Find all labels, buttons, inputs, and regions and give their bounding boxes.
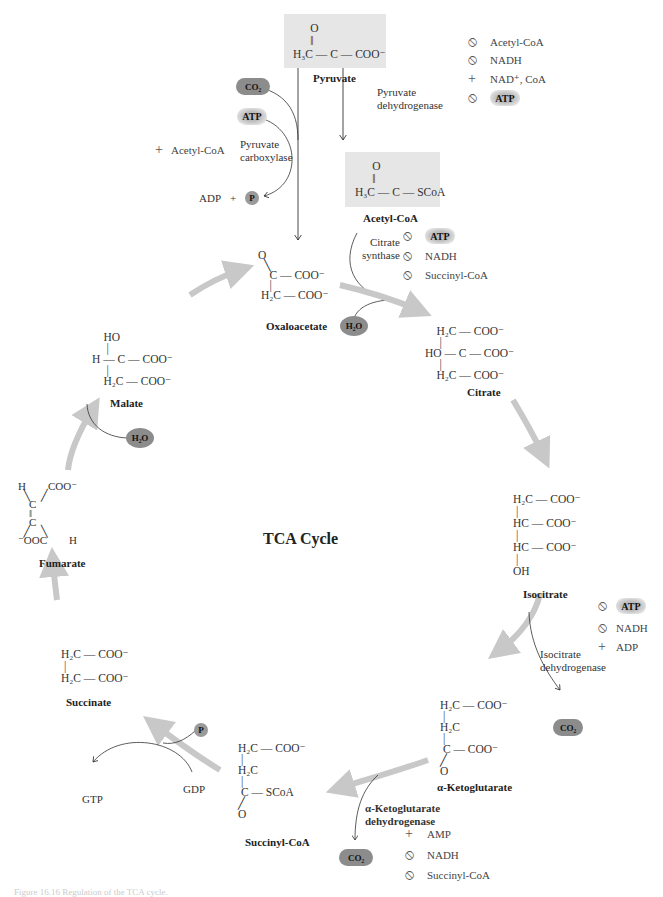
h2o-badge: H₂O bbox=[340, 316, 368, 336]
phosphate-badge: P bbox=[194, 723, 208, 737]
alpha-ketoglutarate-structure: H₂C — COO⁻ | H₂C | C — COO⁻ ╱ O bbox=[440, 700, 508, 777]
regulator-item: +ADP bbox=[598, 639, 638, 655]
inhibit-icon: ⦸ bbox=[468, 90, 490, 106]
regulator-item: ⦸Succinyl-CoA bbox=[405, 867, 490, 883]
regulator-item: +NAD⁺, CoA bbox=[468, 71, 546, 87]
oxaloacetate-label: Oxaloacetate bbox=[266, 320, 327, 332]
regulator-item: ⦸ATP bbox=[403, 228, 455, 244]
figure-caption: Figure 16.16 Regulation of the TCA cycle… bbox=[14, 887, 168, 897]
enzyme-pyruvate-dehydrogenase: Pyruvate dehydrogenase bbox=[377, 86, 443, 112]
succinate-label: Succinate bbox=[66, 696, 111, 708]
plus-sign: + bbox=[230, 192, 236, 204]
regulator-item: ⦸ATP bbox=[598, 598, 646, 614]
diagram-title: TCA Cycle bbox=[263, 530, 338, 548]
inhibit-icon: ⦸ bbox=[598, 620, 616, 636]
regulator-item: ⦸NADH bbox=[468, 52, 522, 68]
isocitrate-label: Isocitrate bbox=[523, 588, 568, 600]
plus-icon: + bbox=[155, 142, 171, 158]
succinate-structure: H₂C — COO⁻ | H₂C — COO⁻ bbox=[61, 648, 129, 684]
malate-label: Malate bbox=[110, 397, 143, 409]
atp-badge: ATP bbox=[490, 90, 520, 106]
alpha-ketoglutarate-label: α-Ketoglutarate bbox=[437, 781, 512, 793]
pyruvate-label: Pyruvate bbox=[313, 72, 356, 84]
oxaloacetate-structure: O ╲ C — COO⁻ | H₂C — COO⁻ bbox=[258, 250, 328, 300]
enzyme-pyruvate-carboxylase: Pyruvate carboxylase bbox=[240, 138, 293, 164]
regulator-item: ⦸Acetyl-CoA bbox=[468, 34, 544, 50]
inhibit-icon: ⦸ bbox=[598, 598, 616, 614]
citrate-structure: H₂C — COO⁻ | HO — C — COO⁻ | H₂C — COO⁻ bbox=[425, 326, 514, 381]
malate-structure: HO | H — C — COO⁻ | H₂C — COO⁻ bbox=[92, 332, 173, 387]
atp-badge: ATP bbox=[616, 598, 646, 614]
inhibit-icon: ⦸ bbox=[405, 847, 427, 863]
pyruvate-structure: O ‖ H₃C — C — COO⁻ bbox=[293, 22, 386, 61]
regulator-item: ⦸NADH bbox=[405, 847, 459, 863]
enzyme-citrate-synthase: Citrate synthase bbox=[362, 236, 400, 262]
regulator-item: ⦸Succinyl-CoA bbox=[403, 267, 488, 283]
inhibit-icon: ⦸ bbox=[468, 34, 490, 50]
gtp-label: GTP bbox=[82, 793, 103, 805]
regulator-pyruvate-carboxylase: +Acetyl-CoA bbox=[155, 142, 225, 158]
regulator-item: ⦸NADH bbox=[598, 620, 648, 636]
regulator-item: ⦸NADH bbox=[403, 248, 457, 264]
inhibit-icon: ⦸ bbox=[405, 867, 427, 883]
regulator-item: ⦸ATP bbox=[468, 90, 520, 106]
adp-label: ADP bbox=[199, 192, 221, 204]
acetyl-coa-label: Acetyl-CoA bbox=[363, 212, 418, 224]
regulator-item: +AMP bbox=[405, 826, 451, 842]
pathway-arrows-layer bbox=[0, 0, 663, 897]
enzyme-isocitrate-dehydrogenase: Isocitrate dehydrogenase bbox=[540, 648, 606, 674]
plus-icon: + bbox=[598, 639, 616, 655]
citrate-label: Citrate bbox=[467, 386, 501, 398]
plus-icon: + bbox=[468, 71, 490, 87]
succinyl-coa-label: Succinyl-CoA bbox=[245, 836, 310, 848]
gdp-label: GDP bbox=[183, 783, 205, 795]
inhibit-icon: ⦸ bbox=[403, 267, 425, 283]
inhibit-icon: ⦸ bbox=[403, 248, 425, 264]
co2-badge: CO₂ bbox=[553, 719, 583, 736]
fumarate-structure: H COO⁻ ╲ ╱ C ‖ C ╱ ╲ ⁻OOC H bbox=[18, 482, 77, 545]
plus-icon: + bbox=[405, 826, 427, 842]
co2-badge: CO₂ bbox=[339, 849, 373, 866]
fumarate-label: Fumarate bbox=[39, 557, 85, 569]
inhibit-icon: ⦸ bbox=[403, 228, 425, 244]
atp-badge: ATP bbox=[237, 108, 267, 125]
enzyme-akg-dehydrogenase: α-Ketoglutarate dehydrogenase bbox=[365, 802, 440, 828]
acetyl-coa-structure: O ‖ H₃C — C — SCoA bbox=[355, 160, 445, 199]
phosphate-badge: P bbox=[245, 191, 259, 205]
inhibit-icon: ⦸ bbox=[468, 52, 490, 68]
isocitrate-structure: H₂C — COO⁻ | HC — COO⁻ | HC — COO⁻ | OH bbox=[513, 493, 581, 577]
co2-badge: CO₂ bbox=[236, 78, 270, 95]
atp-badge: ATP bbox=[425, 228, 455, 244]
h2o-badge: H₂O bbox=[126, 428, 154, 448]
succinyl-coa-structure: H₂C — COO⁻ | H₂C | C — SCoA ╱ O bbox=[238, 743, 306, 820]
